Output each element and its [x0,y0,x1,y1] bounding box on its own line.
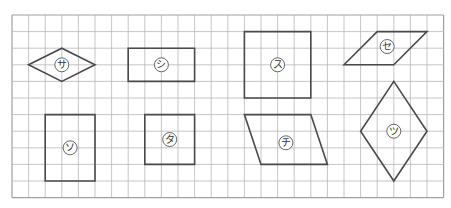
shape-label-se: セ [380,40,394,54]
shape-label-tsu: ツ [387,124,401,138]
grid-figure: サシスセソタチツ [0,0,451,208]
label-text: ソ [65,142,75,153]
shape-label-sa: サ [55,58,69,72]
shape-label-chi: チ [279,136,293,150]
label-text: シ [156,59,166,70]
label-text: サ [57,59,67,70]
shape-label-so: ソ [63,141,77,155]
label-text: セ [382,41,392,52]
shape-label-ta: タ [163,133,177,147]
label-text: ツ [389,126,399,137]
shape-label-su: ス [271,58,285,72]
shape-label-shi: シ [154,58,168,72]
label-text: タ [165,134,175,145]
graph-paper-grid [12,15,444,198]
label-text: ス [273,59,283,70]
label-text: チ [281,137,291,148]
